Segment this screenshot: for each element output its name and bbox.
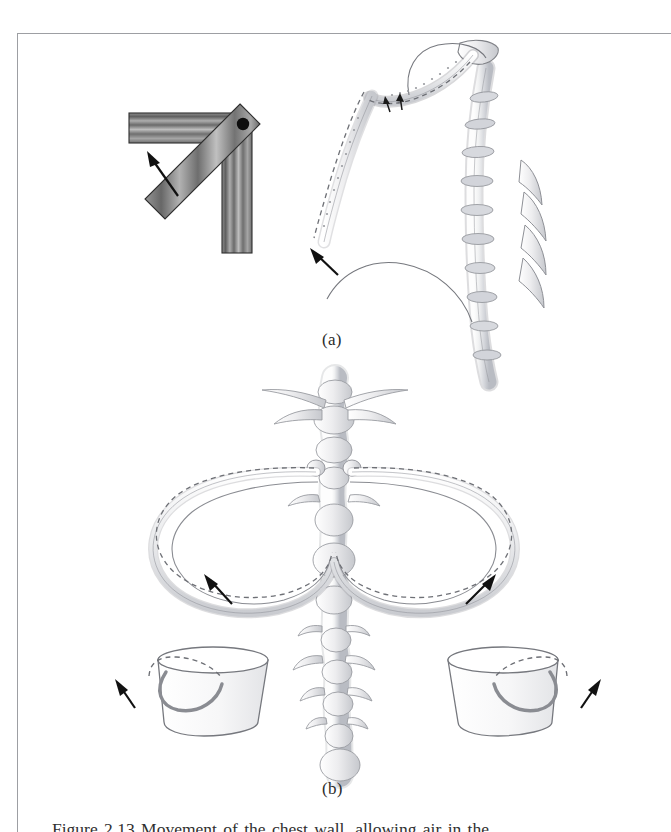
figure-illustration xyxy=(0,0,671,832)
posterior-rib-fragments xyxy=(519,160,546,308)
figure-caption: Figure 2.13 Movement of the chest wall, … xyxy=(52,818,652,832)
rib-elevation-dashed-left xyxy=(156,468,332,598)
scanned-page: (a) (b) Figure 2.13 Movement of the ches… xyxy=(0,0,671,832)
bucket-handle-left xyxy=(115,647,268,736)
panel-label-a: (a) xyxy=(322,330,342,350)
ribcage-motion-arrow-icon xyxy=(310,248,338,275)
clavicle-resting xyxy=(324,96,372,242)
bucket-right-arrow-icon xyxy=(581,679,601,708)
ribcage-motion-arrow-left-icon xyxy=(204,574,232,604)
hinge-pivot-dot xyxy=(237,118,249,130)
panel-label-b: (b) xyxy=(322,779,343,799)
hinge-mechanism-diagram xyxy=(129,104,260,253)
vertebral-column xyxy=(474,68,489,382)
lateral-ribcage-illustration xyxy=(310,40,546,382)
upper-rib-resting xyxy=(369,55,473,102)
rib-elevation-dashed-right xyxy=(336,468,512,598)
bucket-handle-right xyxy=(448,647,601,736)
diaphragm-arc xyxy=(327,263,472,322)
bucket-left-arrow-icon xyxy=(115,679,135,708)
